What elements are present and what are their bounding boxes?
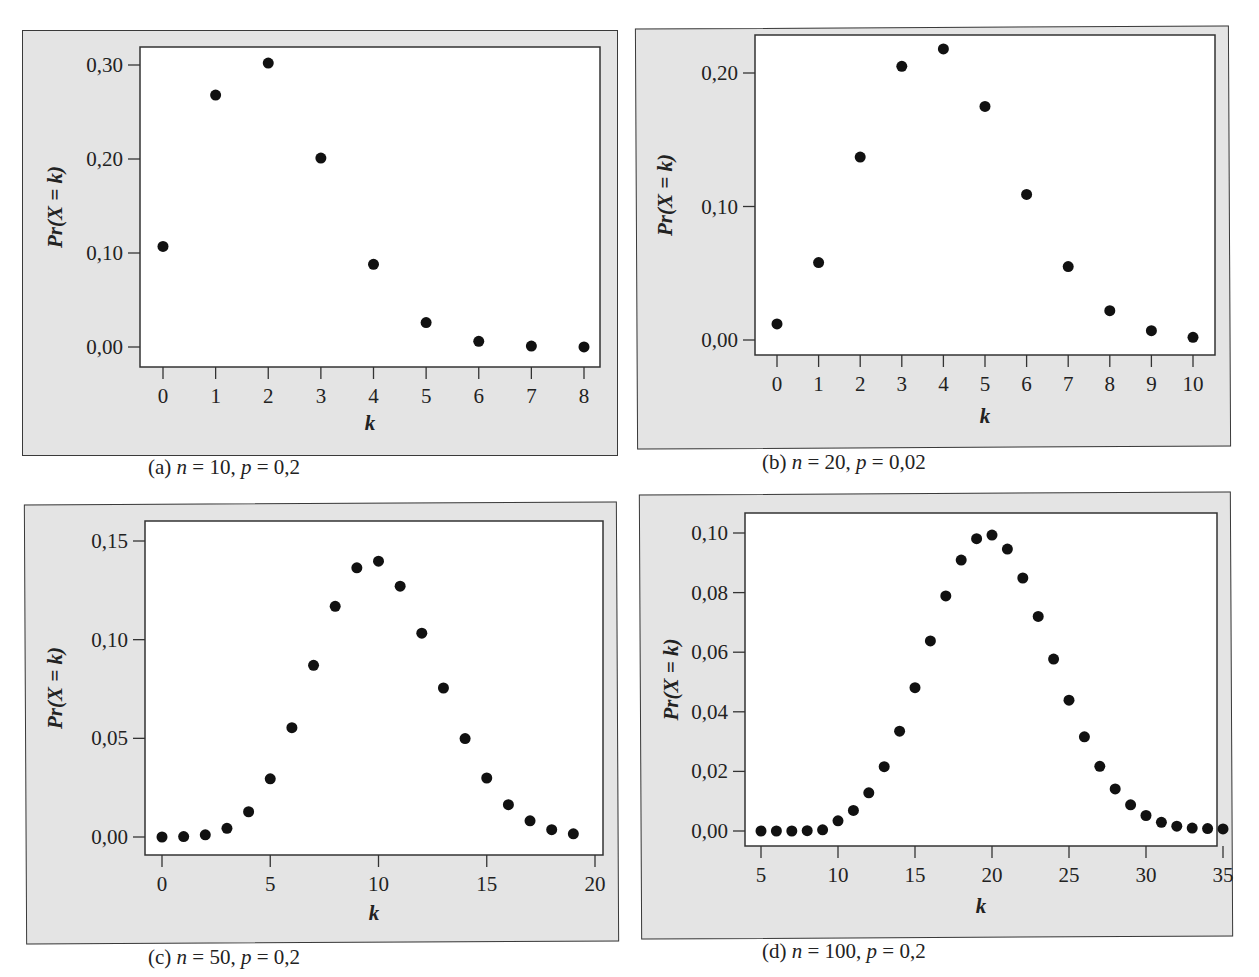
- data-point: [1063, 261, 1074, 272]
- caption-b: (b) n = 20, p = 0,02: [762, 450, 926, 475]
- data-point: [1156, 817, 1167, 828]
- y-tick-label: 0,04: [691, 700, 728, 724]
- caption-p: p: [241, 945, 252, 969]
- y-tick-label: 0,20: [86, 147, 123, 171]
- y-axis-title: Pr(X = k): [659, 639, 683, 722]
- y-tick-label: 0,00: [86, 335, 123, 359]
- caption-n: n: [792, 939, 803, 963]
- chart-a: 0,000,100,200,30012345678kPr(X = k): [43, 47, 600, 435]
- x-tick-label: 30: [1136, 863, 1157, 887]
- x-tick-label: 1: [210, 384, 221, 408]
- caption-p: p: [241, 455, 252, 479]
- caption-p: p: [856, 450, 867, 474]
- plot-area: [145, 521, 603, 855]
- data-point: [1218, 823, 1229, 834]
- x-tick-label: 7: [526, 384, 537, 408]
- caption-p-value: = 0,2: [877, 939, 926, 963]
- data-point: [756, 826, 767, 837]
- caption-p-value: = 0,2: [251, 455, 300, 479]
- caption-c: (c) n = 50, p = 0,2: [148, 945, 300, 970]
- data-point: [1002, 544, 1013, 555]
- y-tick-label: 0,06: [691, 640, 728, 664]
- x-tick-label: 10: [828, 863, 849, 887]
- data-point: [210, 90, 221, 101]
- x-tick-label: 0: [772, 372, 783, 396]
- caption-prefix: (c): [148, 945, 177, 969]
- caption-n-value: = 20,: [802, 450, 856, 474]
- caption-p-value: = 0,2: [251, 945, 300, 969]
- data-point: [1104, 305, 1115, 316]
- data-point: [158, 241, 169, 252]
- x-tick-label: 0: [157, 872, 168, 896]
- x-axis-title: k: [980, 404, 991, 428]
- x-tick-label: 5: [421, 384, 432, 408]
- x-tick-label: 20: [982, 863, 1003, 887]
- y-tick-label: 0,10: [86, 241, 123, 265]
- x-axis-title: k: [369, 901, 380, 925]
- y-tick-label: 0,08: [691, 581, 728, 605]
- y-tick-label: 0,20: [701, 61, 738, 85]
- data-point: [971, 533, 982, 544]
- x-tick-label: 25: [1059, 863, 1080, 887]
- x-axis-title: k: [976, 894, 987, 918]
- y-axis-title: Pr(X = k): [653, 154, 677, 237]
- data-point: [1017, 572, 1028, 583]
- data-point: [421, 317, 432, 328]
- data-point: [1064, 695, 1075, 706]
- y-tick-label: 0,15: [91, 529, 128, 553]
- data-point: [373, 556, 384, 567]
- data-point: [817, 824, 828, 835]
- caption-p-value: = 0,02: [867, 450, 926, 474]
- x-tick-label: 4: [368, 384, 379, 408]
- data-point: [265, 773, 276, 784]
- data-point: [772, 318, 783, 329]
- caption-n-value: = 10,: [187, 455, 241, 479]
- data-point: [813, 257, 824, 268]
- data-point: [200, 829, 211, 840]
- x-tick-label: 5: [756, 863, 767, 887]
- data-point: [956, 555, 967, 566]
- y-tick-label: 0,30: [86, 53, 123, 77]
- data-point: [568, 828, 579, 839]
- x-tick-label: 2: [263, 384, 274, 408]
- chart-d: 0,000,020,040,060,080,105101520253035kPr…: [659, 513, 1234, 918]
- caption-n-value: = 50,: [187, 945, 241, 969]
- caption-p: p: [867, 939, 878, 963]
- x-tick-label: 1: [813, 372, 824, 396]
- data-point: [894, 726, 905, 737]
- x-tick-label: 35: [1213, 863, 1234, 887]
- x-tick-label: 3: [316, 384, 327, 408]
- data-point: [1110, 783, 1121, 794]
- caption-prefix: (d): [762, 939, 792, 963]
- data-point: [1048, 654, 1059, 665]
- data-point: [286, 722, 297, 733]
- x-tick-label: 15: [476, 872, 497, 896]
- data-point: [308, 660, 319, 671]
- data-point: [481, 772, 492, 783]
- x-tick-label: 6: [1021, 372, 1032, 396]
- data-point: [330, 601, 341, 612]
- x-tick-label: 2: [855, 372, 866, 396]
- caption-prefix: (a): [148, 455, 177, 479]
- data-point: [395, 581, 406, 592]
- plot-area: [745, 513, 1217, 846]
- data-point: [1021, 189, 1032, 200]
- caption-n: n: [177, 455, 188, 479]
- data-point: [351, 562, 362, 573]
- x-tick-label: 5: [980, 372, 991, 396]
- plot-area: [755, 35, 1215, 355]
- caption-prefix: (b): [762, 450, 792, 474]
- chart-canvas: 0,000,100,200,30012345678kPr(X = k)0,000…: [0, 0, 1259, 977]
- data-point: [1146, 325, 1157, 336]
- data-point: [1125, 799, 1136, 810]
- caption-n: n: [177, 945, 188, 969]
- data-point: [879, 761, 890, 772]
- data-point: [938, 43, 949, 54]
- data-point: [243, 806, 254, 817]
- x-tick-label: 15: [905, 863, 926, 887]
- data-point: [896, 61, 907, 72]
- x-tick-label: 4: [938, 372, 949, 396]
- x-tick-label: 20: [585, 872, 606, 896]
- data-point: [178, 831, 189, 842]
- x-tick-label: 8: [579, 384, 590, 408]
